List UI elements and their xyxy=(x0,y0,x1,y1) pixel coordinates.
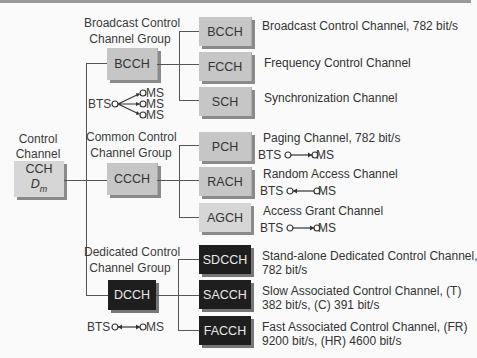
desc-line1: Stand-alone Dedicated Control Channel, xyxy=(262,249,477,263)
caption-line2: Channel Group xyxy=(84,261,176,276)
branch-line xyxy=(178,259,179,330)
desc-line2: 9200 bit/s, (HR) 4600 bit/s xyxy=(262,334,467,348)
right-arrow-icon xyxy=(287,228,319,236)
box-label: PCH xyxy=(212,140,238,154)
connector xyxy=(86,295,108,296)
dm-label: Dm xyxy=(31,177,48,197)
dcch-group-box: DCCH xyxy=(108,280,156,310)
bcch-channel-box: BCCH xyxy=(199,17,252,46)
desc-line2: 782 bit/s xyxy=(262,263,477,277)
box-label: BCCH xyxy=(114,57,149,71)
agch-channel-box: AGCH xyxy=(199,203,251,232)
left-arrow-icon xyxy=(287,191,319,199)
connector xyxy=(178,259,199,260)
box-label: SACCH xyxy=(203,288,247,302)
box-label: SCH xyxy=(212,95,238,109)
facch-description: Fast Associated Control Channel, (FR) 92… xyxy=(262,320,467,348)
connector xyxy=(179,217,199,218)
dedicated-group-caption: Dedicated Control Channel Group xyxy=(84,245,176,276)
bts-label: BTS xyxy=(260,221,283,235)
sacch-channel-box: SACCH xyxy=(199,280,251,309)
box-label: DCCH xyxy=(114,288,150,302)
cch-label: CCH xyxy=(25,162,52,177)
caption-line2: Channel Group xyxy=(86,146,176,161)
caption-line1: Dedicated Control xyxy=(84,245,176,260)
desc-line2: 382 bit/s, (C) 391 bit/s xyxy=(262,298,461,312)
connector xyxy=(178,330,199,331)
common-group-caption: Common Control Channel Group xyxy=(86,130,176,161)
top-border xyxy=(0,0,471,3)
rach-channel-box: RACH xyxy=(199,167,252,196)
connector xyxy=(157,64,199,65)
ms-label: MS xyxy=(146,320,164,335)
bcch-description: Broadcast Control Channel, 782 bit/s xyxy=(262,19,458,33)
box-label: BCCH xyxy=(207,25,242,39)
sch-channel-box: SCH xyxy=(199,87,252,116)
root-title-line1: Control xyxy=(8,132,68,147)
connector xyxy=(86,63,107,64)
caption-line2: Channel Group xyxy=(84,32,176,47)
sdcch-description: Stand-alone Dedicated Control Channel, 7… xyxy=(262,249,477,277)
root-title: Control Channel xyxy=(8,132,68,162)
sacch-description: Slow Associated Control Channel, (T) 382… xyxy=(262,284,461,312)
ms-label: MS xyxy=(316,148,334,162)
ms-label: MS xyxy=(318,221,336,235)
box-label: SDCCH xyxy=(203,253,247,267)
rach-description: Random Access Channel xyxy=(263,167,398,181)
sch-description: Synchronization Channel xyxy=(264,91,397,105)
right-arrow-icon xyxy=(285,155,317,163)
bts-label: BTS xyxy=(260,184,283,198)
ms-label: MS xyxy=(318,184,336,198)
connector xyxy=(157,180,199,181)
caption-line1: Common Control xyxy=(86,130,176,145)
fcch-channel-box: FCCH xyxy=(199,52,252,81)
bcch-group-box: BCCH xyxy=(107,48,158,80)
branch-line xyxy=(179,31,180,100)
caption-line1: Broadcast Control xyxy=(84,16,176,31)
box-label: FACCH xyxy=(204,324,246,338)
facch-channel-box: FACCH xyxy=(199,316,251,345)
bts-label: BTS xyxy=(88,97,111,112)
bts-label: BTS xyxy=(258,148,281,162)
branch-line xyxy=(179,145,180,217)
pch-channel-box: PCH xyxy=(199,132,252,161)
fcch-description: Frequency Control Channel xyxy=(264,56,411,70)
root-title-line2: Channel xyxy=(8,147,68,162)
box-label: RACH xyxy=(207,175,242,189)
pch-description: Paging Channel, 782 bit/s xyxy=(263,131,400,145)
connector xyxy=(179,31,199,32)
agch-description: Access Grant Channel xyxy=(263,204,383,218)
cch-box: CCH Dm xyxy=(14,161,64,197)
bts-label: BTS xyxy=(87,320,110,335)
ms-label: MS xyxy=(146,108,164,123)
bts-ms-fan-arrows-icon xyxy=(112,86,142,116)
broadcast-group-caption: Broadcast Control Channel Group xyxy=(84,16,176,47)
bidirectional-arrow-icon xyxy=(112,327,144,335)
connector xyxy=(179,100,199,101)
sdcch-channel-box: SDCCH xyxy=(199,245,251,274)
box-label: FCCH xyxy=(208,60,243,74)
box-label: AGCH xyxy=(207,211,243,225)
connector xyxy=(179,145,199,146)
ccch-group-box: CCCH xyxy=(107,163,158,195)
desc-line1: Fast Associated Control Channel, (FR) xyxy=(262,320,467,334)
box-label: CCCH xyxy=(114,172,150,186)
desc-line1: Slow Associated Control Channel, (T) xyxy=(262,284,461,298)
